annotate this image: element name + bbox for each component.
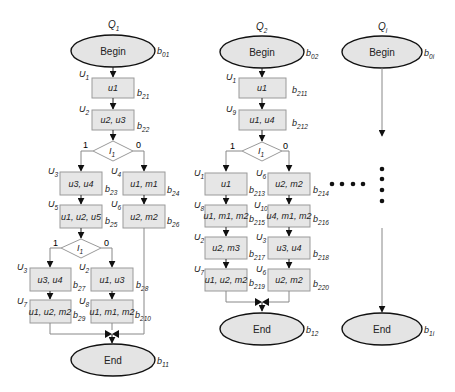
begin-label: Begin (100, 46, 126, 57)
block-b210[interactable]: u1, m1, m2 (89, 300, 134, 323)
end-label: End (104, 355, 122, 366)
svg-text:u3, u4: u3, u4 (37, 275, 62, 285)
branch-true-label: 1 (230, 141, 235, 151)
op-label-U2: U2 (194, 232, 205, 244)
block-b23[interactable]: u3, u4 (60, 172, 102, 195)
flowchart-canvas: Q1 Begin b01 U1 u1 b21 U2 u2, u3 b22 I1 (0, 0, 455, 392)
block-tag-b218: b218 (313, 249, 329, 261)
block-tag-b29: b29 (73, 310, 86, 322)
block-tag-b213: b213 (249, 185, 265, 197)
block-b220[interactable]: u2, m2 (268, 269, 310, 291)
op-label-U2: U2 (79, 262, 90, 274)
block-tag-b220: b220 (313, 279, 329, 291)
block-tag-b22: b22 (137, 121, 150, 133)
block-b219[interactable]: u1, u2, m2 (205, 269, 248, 291)
svg-text:u1, u4: u1, u4 (249, 115, 274, 125)
block-b212[interactable]: u1, u4 (239, 110, 286, 130)
block-tag-b211: b211 (292, 85, 308, 97)
op-label-U3: U3 (48, 166, 59, 178)
op-label-U3: U3 (17, 262, 28, 274)
ellipsis-horizontal-icon (330, 182, 366, 187)
decision-I1-q1-b[interactable]: I1 (61, 239, 101, 258)
op-label-U9: U9 (226, 104, 237, 116)
merge-join-icon (255, 298, 269, 311)
svg-text:u2, m3: u2, m3 (212, 243, 240, 253)
svg-text:u3, u4: u3, u4 (68, 179, 93, 189)
end-node-q1[interactable]: End (71, 344, 155, 376)
op-label-U6: U6 (256, 264, 267, 276)
block-b214[interactable]: u2, m2 (268, 173, 310, 195)
block-b22[interactable]: u2, u3 (92, 110, 134, 130)
block-tag-b23: b23 (105, 184, 118, 196)
block-tag-b212: b212 (292, 118, 308, 130)
query-label-qi: Qi (378, 21, 388, 34)
block-tag-b12: b12 (306, 325, 319, 337)
block-b211[interactable]: u1 (239, 78, 286, 98)
svg-text:u3, u4: u3, u4 (276, 243, 301, 253)
end-node-qi[interactable]: End (342, 313, 422, 345)
svg-text:u1: u1 (108, 83, 118, 93)
block-tag-b1i: b1i (424, 325, 435, 337)
block-tag-b24: b24 (167, 185, 180, 197)
branch-false-label: 0 (104, 238, 109, 248)
op-label-U2: U2 (79, 104, 90, 116)
block-tag-b01: b01 (157, 46, 170, 58)
block-b28[interactable]: u1, u3 (91, 268, 133, 291)
block-b218[interactable]: u3, u4 (268, 237, 310, 259)
op-label-U8: U8 (79, 296, 90, 308)
op-label-U1: U1 (194, 168, 205, 180)
svg-text:u1, m1: u1, m1 (130, 179, 158, 189)
svg-text:u1, u2, u5: u1, u2, u5 (61, 212, 102, 222)
op-label-U5: U5 (48, 199, 59, 211)
svg-text:u1, m1, m2: u1, m1, m2 (89, 307, 134, 317)
svg-text:u4, m1, m2: u4, m1, m2 (266, 211, 311, 221)
block-b21[interactable]: u1 (92, 78, 134, 98)
block-tag-b21: b21 (137, 88, 150, 100)
block-b217[interactable]: u2, m3 (205, 237, 247, 259)
svg-text:u1, u2, m2: u1, u2, m2 (29, 307, 72, 317)
end-label: End (373, 324, 391, 335)
svg-text:u1, u2, m2: u1, u2, m2 (205, 275, 248, 285)
op-label-U4: U4 (111, 166, 122, 178)
block-tag-b26: b26 (167, 216, 180, 228)
end-node-q2[interactable]: End (220, 313, 304, 345)
block-b25[interactable]: u1, u2, u5 (60, 205, 102, 228)
begin-label: Begin (369, 47, 395, 58)
query-q1-flow: Q1 Begin b01 U1 u1 b21 U2 u2, u3 b22 I1 (17, 19, 180, 376)
svg-text:u2, m2: u2, m2 (275, 179, 303, 189)
block-tag-b217: b217 (249, 249, 265, 261)
svg-text:u2, u3: u2, u3 (100, 115, 125, 125)
block-tag-b02: b02 (306, 48, 319, 60)
block-tag-b28: b28 (136, 280, 149, 292)
begin-node-qi[interactable]: Begin (342, 36, 422, 68)
block-b29[interactable]: u1, u2, m2 (29, 300, 72, 323)
branch-false-label: 0 (136, 140, 141, 150)
decision-I1-q1-a[interactable]: I1 (93, 141, 133, 161)
end-label: End (253, 324, 271, 335)
op-label-U3: U3 (256, 232, 267, 244)
begin-node-q1[interactable]: Begin (71, 35, 155, 67)
op-label-U1: U1 (79, 69, 90, 81)
query-q2-flow: Q2 Begin b02 U1 u1 b211 U9 u1, u4 b212 I… (194, 21, 329, 345)
query-label-q2: Q2 (256, 21, 268, 34)
merge-join-icon (105, 330, 119, 343)
block-tag-b215: b215 (249, 214, 265, 226)
block-b213[interactable]: u1 (205, 173, 247, 195)
block-tag-b27: b27 (73, 280, 86, 292)
branch-true-label: 1 (83, 140, 88, 150)
block-tag-b210: b210 (135, 310, 151, 322)
block-b24[interactable]: u1, m1 (123, 172, 165, 195)
branch-false-label: 0 (283, 141, 288, 151)
op-label-U6: U6 (111, 199, 122, 211)
block-b216[interactable]: u4, m1, m2 (266, 205, 311, 227)
block-b27[interactable]: u3, u4 (30, 268, 71, 291)
decision-I1-q2[interactable]: I1 (242, 142, 282, 161)
block-tag-b0i: b0i (424, 48, 435, 60)
op-label-U7: U7 (194, 264, 205, 276)
block-tag-b219: b219 (249, 278, 265, 290)
block-b215[interactable]: u1, m1, m2 (203, 205, 248, 227)
begin-node-q2[interactable]: Begin (220, 36, 304, 68)
block-b26[interactable]: u2, m2 (123, 205, 165, 228)
branch-true-label: 1 (53, 238, 58, 248)
svg-text:u2, m2: u2, m2 (130, 212, 158, 222)
